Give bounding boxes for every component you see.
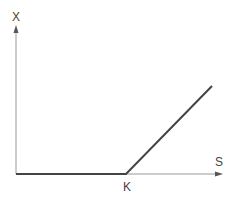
payoff-line — [16, 86, 212, 174]
x-axis-arrow-icon — [215, 172, 223, 177]
y-axis-arrow-icon — [14, 25, 19, 33]
payoff-diagram: X S K — [0, 0, 233, 197]
y-axis-label: X — [12, 10, 20, 24]
x-axis-label: S — [215, 155, 223, 169]
kink-label: K — [123, 180, 131, 194]
